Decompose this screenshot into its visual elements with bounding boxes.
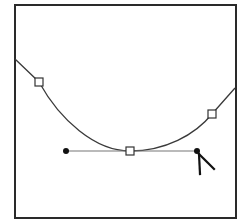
direction-handle-point-left[interactable] bbox=[63, 148, 69, 154]
anchor-point-left[interactable] bbox=[35, 78, 43, 86]
anchor-point-bottom[interactable] bbox=[126, 147, 134, 155]
anchor-point-right[interactable] bbox=[208, 110, 216, 118]
frame-border bbox=[15, 5, 236, 218]
canvas[interactable] bbox=[0, 0, 252, 224]
